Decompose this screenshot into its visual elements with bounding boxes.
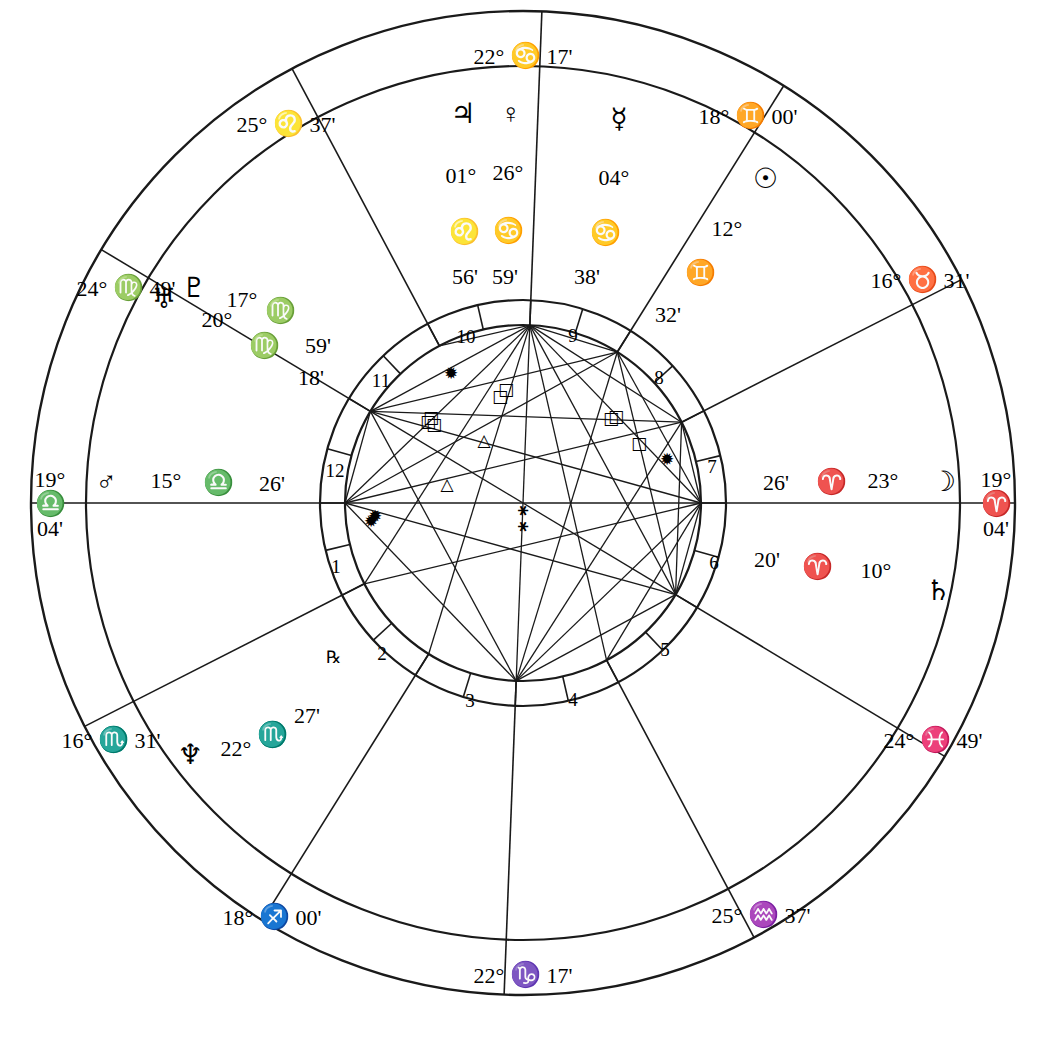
house-cusp-spoke (607, 660, 729, 889)
planet-sign-uranus: ♍ (249, 333, 280, 358)
house-ring-divider (415, 654, 428, 675)
aspect-line (370, 411, 516, 681)
planet-minute-jupiter: 56' (452, 266, 478, 288)
cusp-18-gemini-00: 18° ♊ 00' (699, 103, 798, 129)
zodiac-sign-glyph: ♈ (981, 491, 1012, 517)
house-ring-divider (682, 411, 704, 422)
planet-sign-pluto: ♍ (265, 298, 296, 323)
cusp-25-leo-37: 25° ♌ 37' (237, 111, 336, 137)
planet-minute-moon: 26' (763, 472, 789, 494)
zodiac-ring-tick (85, 701, 134, 726)
aspect-line (682, 422, 701, 503)
house-ring-divider (342, 584, 364, 595)
house-number-2: 2 (377, 644, 387, 663)
aspect-line (617, 352, 675, 595)
house-number-7: 7 (707, 457, 717, 476)
zodiac-sign-glyph: ♐ (259, 903, 290, 930)
zodiac-sign-glyph: ♓ (920, 726, 951, 753)
planet-minute-venus: 59' (492, 266, 518, 288)
zodiac-sign-glyph: ♎ (35, 491, 66, 517)
degree-value: 22° (474, 963, 505, 988)
aspect-marker-trine: △ (440, 474, 453, 494)
planet-degree-venus: 26° (493, 162, 524, 184)
degree-value: 19° (981, 468, 1012, 491)
planet-glyph-saturn[interactable]: ♄ (925, 577, 950, 605)
degree-value: 16° (871, 268, 902, 293)
house-ring-divider (676, 595, 697, 608)
cusp-18-sagittarius-00: 18° ♐ 00' (223, 904, 322, 930)
aspect-marker-semisextile: ⚹ (518, 515, 528, 535)
planet-glyph-mars[interactable]: ♂ (96, 468, 117, 496)
planet-sign-neptune: ♏ (257, 722, 288, 747)
planet-glyph-moon[interactable]: ☽ (931, 468, 956, 496)
house-cusp-spoke (617, 132, 754, 352)
degree-value: 16° (62, 728, 93, 753)
planet-glyph-uranus[interactable]: ♅ (151, 285, 176, 313)
zodiac-sign-glyph: ♉ (907, 266, 938, 293)
aspect-line (530, 325, 607, 660)
house-ring-subdivider (373, 623, 391, 640)
house-cusp-spoke (530, 66, 540, 325)
house-cusp-spoke (318, 117, 440, 346)
house-number-8: 8 (654, 368, 664, 387)
house-cusp-spoke (506, 681, 516, 940)
house-ring-divider (530, 300, 531, 325)
house-cusp-spoke (676, 595, 898, 728)
aspect-marker-square: □ (631, 433, 647, 453)
planet-sign-mercury: ♋ (590, 220, 621, 245)
house-ring-subdivider (478, 305, 484, 329)
degree-value: 18° (699, 104, 730, 129)
zodiac-sign-glyph: ♋ (510, 42, 541, 69)
house-number-12: 12 (326, 461, 345, 480)
planet-minute-sun: 32' (655, 304, 681, 326)
planet-degree-uranus: 20° (202, 309, 233, 331)
planet-degree-neptune: 22° (221, 738, 252, 760)
zodiac-sign-glyph: ♑ (510, 961, 541, 988)
planet-glyph-jupiter[interactable]: ♃ (450, 100, 475, 128)
minute-value: 17' (546, 44, 572, 69)
axis-label-ascendant: 19°♎04' (35, 468, 66, 540)
planet-sign-saturn: ♈ (802, 554, 833, 579)
axis-label-descendant: 19°♈04' (981, 468, 1012, 540)
planet-glyph-pluto[interactable]: ♇ (181, 274, 206, 302)
planet-glyph-venus[interactable]: ♀ (501, 100, 522, 128)
house-ring-divider (607, 660, 619, 682)
house-number-6: 6 (709, 553, 719, 572)
aspect-line (345, 411, 370, 503)
cusp-24-pisces-49: 24° ♓ 49' (884, 727, 983, 753)
zodiac-sign-glyph: ♊ (735, 102, 766, 129)
planet-degree-sun: 12° (712, 218, 743, 240)
minute-value: 00' (771, 104, 797, 129)
aspect-line (364, 503, 701, 584)
house-number-10: 10 (457, 327, 476, 346)
degree-value: 18° (223, 905, 254, 930)
planet-sign-jupiter: ♌ (449, 219, 480, 244)
planet-sign-sun: ♊ (685, 260, 716, 285)
planet-minute-mars: 26' (259, 473, 285, 495)
planet-minute-saturn: 20' (754, 549, 780, 571)
aspect-marker-sextile: ✹ (444, 363, 458, 383)
cusp-16-taurus-31: 16° ♉ 31' (871, 267, 970, 293)
degree-value: 25° (712, 903, 743, 928)
aspect-line (516, 422, 681, 681)
planet-glyph-neptune[interactable]: ♆ (177, 741, 202, 769)
axis-label-ic: 22° ♑ 17' (474, 962, 573, 988)
planet-glyph-mercury[interactable]: ☿ (610, 105, 627, 133)
house-ring-subdivider (327, 449, 351, 456)
degree-value: 22° (474, 44, 505, 69)
cusp-25-aquarius-37: 25° ♒ 37' (712, 902, 811, 928)
planet-degree-mercury: 04° (599, 167, 630, 189)
planet-sign-venus: ♋ (493, 218, 524, 243)
house-ring-subdivider (326, 545, 350, 551)
minute-value: 31' (943, 268, 969, 293)
house-ring-divider (515, 681, 516, 706)
cusp-16-scorpio-31: 16° ♏ 31' (62, 727, 161, 753)
house-cusp-spoke (291, 654, 428, 874)
house-ring-divider (349, 398, 370, 411)
aspect-marker-square-cluster: □ (423, 407, 439, 427)
zodiac-sign-glyph: ♌ (273, 110, 304, 137)
aspect-marker-sextile: ✹ (660, 449, 674, 469)
house-number-9: 9 (568, 326, 578, 345)
planet-degree-moon: 23° (868, 470, 899, 492)
planet-glyph-sun[interactable]: ☉ (753, 165, 778, 193)
